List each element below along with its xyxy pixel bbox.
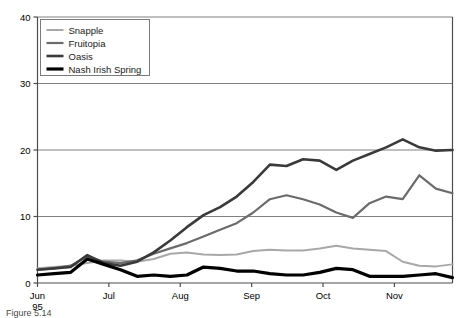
chart-figure: 010203040 Jun95JulAugSepOctNov SnappleFr…	[0, 0, 468, 318]
y-tick-label-0: 0	[25, 278, 30, 289]
legend-label-snapple: Snapple	[69, 25, 104, 36]
caption-label: Figure 5.14	[6, 308, 52, 318]
x-tick-label-jul: Jul	[103, 290, 115, 301]
legend: SnappleFruitopiaOasisNash Irish Spring	[41, 20, 150, 76]
y-tick-label-40: 40	[20, 12, 31, 23]
x-tick-label-oct: Oct	[316, 290, 331, 301]
y-tick-label-10: 10	[20, 211, 31, 222]
y-tick-label-30: 30	[20, 78, 31, 89]
x-tick-label-aug: Aug	[172, 290, 189, 301]
y-tick-label-20: 20	[20, 145, 31, 156]
legend-label-fruitopia: Fruitopia	[69, 38, 107, 49]
figure-caption: Figure 5.14	[6, 308, 52, 318]
x-tick-label-jun: Jun	[30, 290, 45, 301]
legend-label-oasis: Oasis	[69, 51, 94, 62]
legend-label-nash-irish-spring: Nash Irish Spring	[69, 64, 142, 75]
x-tick-label-sep: Sep	[243, 290, 260, 301]
line-chart: 010203040 Jun95JulAugSepOctNov SnappleFr…	[0, 0, 468, 318]
x-tick-label-nov: Nov	[386, 290, 403, 301]
